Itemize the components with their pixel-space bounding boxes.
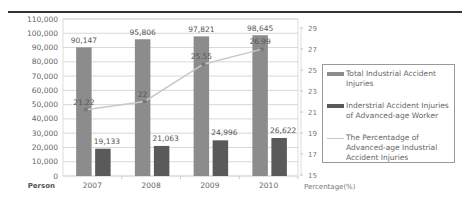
data-label: 98,645 [247,24,273,33]
y-tick-label: 40,000 [32,114,58,123]
bar-total-2007 [76,47,92,176]
data-label: 97,821 [188,25,214,34]
y2-tick-label: 21 [308,109,317,117]
line-data-label: 25.55 [191,52,213,61]
line-marker [260,48,264,51]
y-tick-label: 70,000 [32,72,58,81]
y2-tick-label: 17 [308,151,317,159]
y-tick-label: 80,000 [32,57,58,66]
chart-legend: Total Industrial Accident Injuries Inder… [322,64,455,163]
legend-swatch-bar-icon [327,104,344,108]
y-tick-label: 30,000 [32,129,58,138]
data-label: 19,133 [94,137,120,146]
x-tick-label: 2007 [83,181,102,190]
line-data-label: 21.22 [73,98,95,107]
bar-total-2008 [135,39,151,176]
legend-label: The Percentadge of Advanced-age Industri… [346,133,454,163]
data-label: 26,622 [270,126,296,135]
bar-advanced-age-2007 [95,149,111,176]
y-tick-label: 0 [53,172,58,181]
line-marker [143,100,147,103]
data-label: 24,996 [211,128,237,137]
line-data-label: 22 [138,90,148,99]
y2-tick-label: 19 [308,130,317,138]
y2-tick-label: 15 [308,172,317,180]
bar-advanced-age-2010 [271,138,287,176]
line-marker [84,108,88,111]
x-tick-label: 2010 [259,181,278,190]
bar-advanced-age-2009 [213,140,229,176]
data-label: 90,147 [71,36,97,45]
line-marker [201,63,205,66]
y-tick-label: 90,000 [32,43,58,52]
y-tick-label: 10,000 [32,157,58,166]
y-tick-label: 100,000 [27,29,58,38]
data-label: 21,063 [153,134,179,143]
percentage-line [86,49,262,110]
legend-label: Inderstrial Accident Injuries of Advance… [346,101,454,121]
x-tick-label: 2008 [142,181,161,190]
y2-tick-label: 27 [308,46,317,54]
y2-tick-label: 29 [308,25,317,33]
y2-tick-label: 25 [308,67,317,75]
y2-axis-title: Percentage(%) [304,183,356,191]
y-axis-title: Person [28,182,55,190]
legend-swatch-bar-icon [327,72,344,76]
y-tick-label: 110,000 [27,15,58,24]
y2-tick-label: 23 [308,88,317,96]
bar-total-2010 [252,35,268,176]
y-tick-label: 50,000 [32,100,58,109]
x-tick-label: 2009 [200,181,219,190]
bar-advanced-age-2008 [154,146,170,176]
y-tick-label: 60,000 [32,86,58,95]
legend-label: Total Industrial Accident Injuries [346,69,454,89]
line-data-label: 26.99 [249,37,271,46]
y-tick-label: 20,000 [32,143,58,152]
legend-swatch-line-icon [327,138,344,139]
data-label: 95,806 [130,28,156,37]
